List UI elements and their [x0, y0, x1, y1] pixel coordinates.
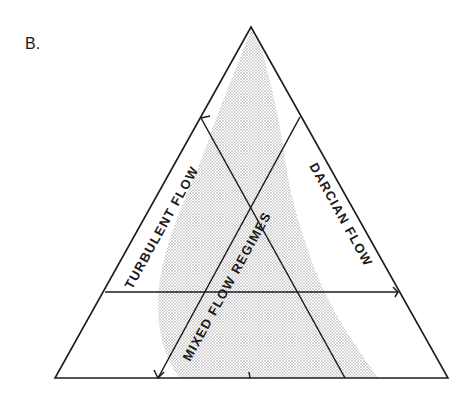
ternary-diagram: TURBULENT FLOW MIXED FLOW REGIMES DARCIA…: [0, 0, 475, 401]
tick-left-edge: [201, 116, 210, 118]
shaded-region: [158, 30, 378, 378]
label-darcian-flow: DARCIAN FLOW: [306, 160, 375, 269]
base-tick: [249, 372, 250, 378]
